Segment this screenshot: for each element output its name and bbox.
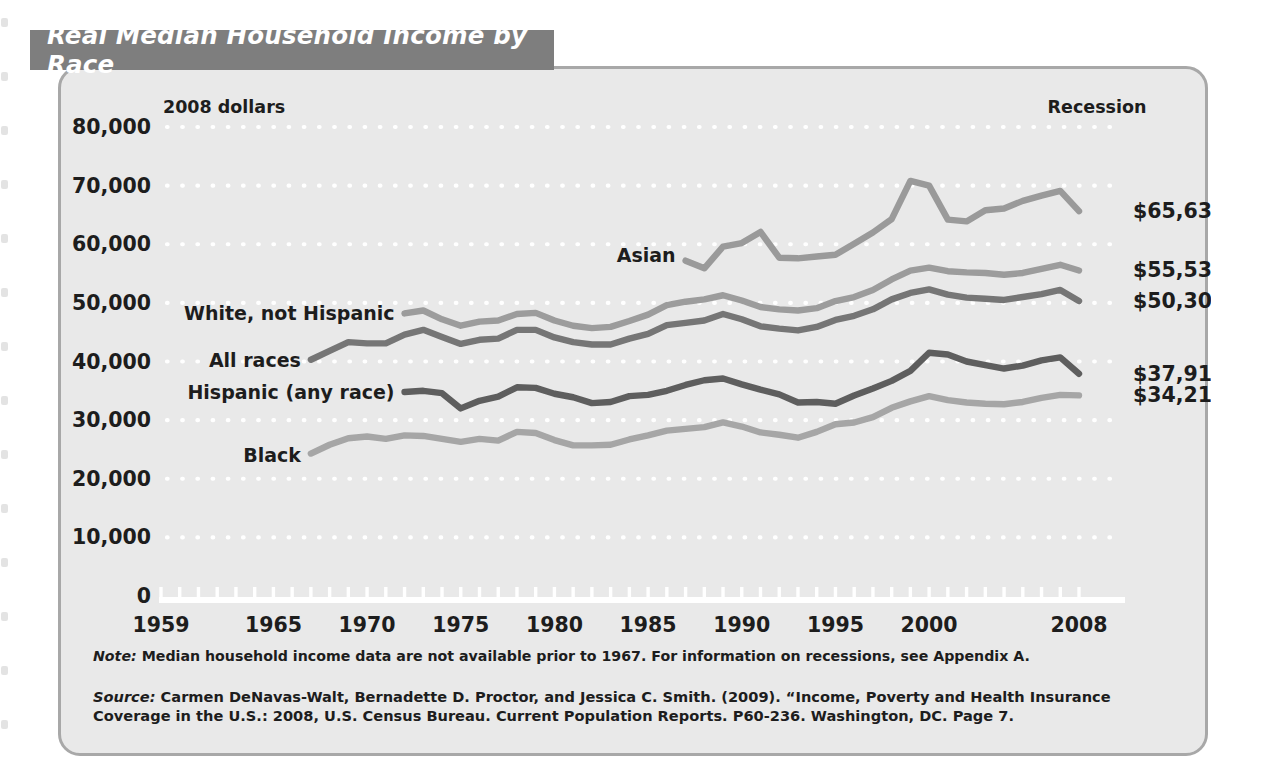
data-line-asian (686, 181, 1079, 268)
series-labels: White, not HispanicAll racesHispanic (an… (184, 244, 676, 466)
x-tick-label: 1995 (807, 613, 864, 637)
end-value-hispanic: $37,913 (1133, 362, 1211, 386)
x-tick-label: 1965 (245, 613, 302, 637)
binder-hole (1, 288, 8, 297)
binder-hole (1, 720, 8, 729)
binder-hole (1, 234, 8, 243)
x-axis (159, 587, 1125, 600)
x-tick-label: 1980 (526, 613, 583, 637)
note-label: Note: (93, 648, 137, 664)
y-tick-label: 20,000 (72, 467, 151, 491)
source-text: Carmen DeNavas-Walt, Bernadette D. Proct… (93, 688, 1111, 724)
page-title: Real Median Household Income by Race (47, 21, 554, 79)
y-tick-label: 40,000 (72, 350, 151, 374)
chart-title-tab: Real Median Household Income by Race (30, 30, 554, 70)
x-tick-label: 1990 (713, 613, 770, 637)
binder-hole (1, 396, 8, 405)
binder-hole (1, 612, 8, 621)
series-label-white-not-hispanic: White, not Hispanic (184, 302, 395, 324)
source-footnote: Source: Carmen DeNavas-Walt, Bernadette … (93, 687, 1178, 726)
binder-hole (1, 342, 8, 351)
data-lines (311, 181, 1079, 454)
note-footnote: Note: Median household income data are n… (93, 647, 1183, 666)
x-axis-labels: 1959196519701975198019851990199520002008 (132, 613, 1107, 637)
end-value-asian: $65,637 (1133, 199, 1211, 223)
y-unit-label: 2008 dollars (163, 97, 285, 117)
y-tick-label: 60,000 (72, 232, 151, 256)
binder-hole (1, 126, 8, 135)
binder-hole (1, 180, 8, 189)
end-value-black: $34,218 (1133, 383, 1211, 407)
binder-hole (1, 666, 8, 675)
y-tick-label: 0 (137, 584, 151, 608)
y-tick-label: 80,000 (72, 115, 151, 139)
y-axis-labels: 80,00070,00060,00050,00040,00030,00020,0… (72, 115, 151, 608)
x-tick-label: 1985 (620, 613, 677, 637)
page-binder-edge (0, 0, 14, 768)
end-value-all-races: $50,303 (1133, 289, 1211, 313)
note-text: Median household income data are not ava… (137, 648, 1030, 664)
series-label-all-races: All races (209, 349, 301, 371)
y-tick-label: 70,000 (72, 174, 151, 198)
x-tick-label: 1970 (339, 613, 396, 637)
data-line-black (311, 395, 1079, 454)
end-value-white-not-hispanic: $55,530 (1133, 258, 1211, 282)
y-tick-label: 10,000 (72, 525, 151, 549)
binder-hole (1, 558, 8, 567)
y-tick-label: 30,000 (72, 408, 151, 432)
binder-hole (1, 504, 8, 513)
x-tick-label: 2008 (1050, 613, 1107, 637)
series-label-hispanic: Hispanic (any race) (187, 381, 394, 403)
x-tick-label: 1975 (432, 613, 489, 637)
y-tick-label: 50,000 (72, 291, 151, 315)
end-value-labels: $65,637$55,530$50,303$37,913$34,218 (1133, 199, 1211, 407)
binder-hole (1, 72, 8, 81)
x-tick-label: 2000 (901, 613, 958, 637)
series-label-black: Black (243, 444, 301, 466)
series-label-asian: Asian (617, 244, 676, 266)
x-tick-label: 1959 (132, 613, 189, 637)
binder-hole (1, 18, 8, 27)
recession-label: Recession (1048, 97, 1147, 117)
binder-hole (1, 450, 8, 459)
source-label: Source: (93, 688, 156, 705)
chart-panel: 80,00070,00060,00050,00040,00030,00020,0… (58, 66, 1208, 756)
